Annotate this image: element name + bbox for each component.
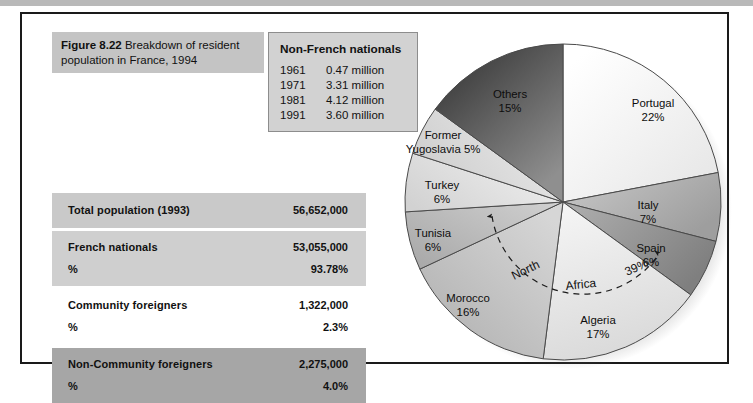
top-rule — [0, 0, 753, 6]
row-label: Non-Community foreigners — [68, 358, 213, 370]
pie-chart-svg: North Africa 39% Portugal 22% Italy 7% S… — [388, 34, 744, 376]
pie-label-tunisia-name: Tunisia — [415, 227, 452, 239]
pie-label-algeria-name: Algeria — [580, 314, 616, 326]
table-row: Total population (1993) 56,652,000 — [52, 199, 366, 221]
row-value: 2,275,000 — [299, 358, 348, 370]
row-value: 1,322,000 — [299, 299, 348, 311]
row-value: 56,652,000 — [293, 204, 348, 216]
year-cell: 1961 — [280, 63, 326, 78]
pie-label-former-yugoslavia-value: Yugoslavia 5% — [406, 143, 481, 155]
row-value: 4.0% — [323, 380, 348, 392]
figure-caption: Figure 8.22 Breakdown of resident popula… — [52, 32, 264, 73]
pie-label-portugal-name: Portugal — [632, 97, 674, 109]
table-row: 1971 3.31 million — [280, 78, 384, 93]
pie-label-others-value: 15% — [499, 102, 522, 114]
table-row: Community foreigners 1,322,000 — [52, 294, 366, 316]
stats-group-french-nationals: French nationals 53,055,000 % 93.78% — [52, 231, 366, 286]
table-row: 1961 0.47 million — [280, 63, 384, 78]
pie-label-algeria-value: 17% — [587, 328, 610, 340]
stats-group-non-community-foreigners: Non-Community foreigners 2,275,000 % 4.0… — [52, 348, 366, 403]
table-row: Non-Community foreigners 2,275,000 — [52, 353, 366, 375]
table-row: % 2.3% — [52, 316, 366, 338]
row-label: % — [68, 321, 78, 333]
pie-label-portugal-value: 22% — [642, 111, 665, 123]
pie-label-turkey-value: 6% — [434, 193, 450, 205]
year-cell: 1971 — [280, 78, 326, 93]
pie-label-italy-name: Italy — [638, 199, 659, 211]
table-row: 1981 4.12 million — [280, 93, 384, 108]
row-value: 2.3% — [323, 321, 348, 333]
non-french-nationals-table: 1961 0.47 million 1971 3.31 million 1981… — [280, 63, 384, 122]
pie-label-former-yugoslavia-name: Former — [425, 129, 462, 141]
population-stats-table: Total population (1993) 56,652,000 Frenc… — [52, 193, 366, 403]
table-row: French nationals 53,055,000 — [52, 236, 366, 258]
value-cell: 4.12 million — [326, 93, 384, 108]
pie-slices — [405, 44, 721, 360]
pie-label-others-name: Others — [493, 88, 527, 100]
pie-label-morocco-name: Morocco — [446, 292, 490, 304]
value-cell: 0.47 million — [326, 63, 384, 78]
value-cell: 3.60 million — [326, 107, 384, 122]
row-label: French nationals — [68, 241, 158, 253]
row-label: Community foreigners — [68, 299, 187, 311]
stats-group-community-foreigners: Community foreigners 1,322,000 % 2.3% — [52, 289, 366, 344]
year-cell: 1981 — [280, 93, 326, 108]
year-cell: 1991 — [280, 107, 326, 122]
pie-label-tunisia-value: 6% — [425, 241, 441, 253]
table-row: % 93.78% — [52, 258, 366, 280]
pie-label-italy-value: 7% — [640, 213, 656, 225]
stats-group-total-population: Total population (1993) 56,652,000 — [52, 193, 366, 228]
table-row: 1991 3.60 million — [280, 107, 384, 122]
row-value: 53,055,000 — [293, 241, 348, 253]
figure-number: Figure 8.22 — [61, 39, 122, 51]
row-value: 93.78% — [311, 263, 348, 275]
pie-label-spain-name: Spain — [636, 242, 665, 254]
figure-frame: Figure 8.22 Breakdown of resident popula… — [20, 12, 729, 364]
row-label: % — [68, 263, 78, 275]
pie-label-turkey-name: Turkey — [425, 179, 460, 191]
row-label: Total population (1993) — [68, 204, 190, 216]
pie-label-morocco-value: 16% — [457, 306, 480, 318]
value-cell: 3.31 million — [326, 78, 384, 93]
row-label: % — [68, 380, 78, 392]
table-row: % 4.0% — [52, 375, 366, 397]
pie-chart: North Africa 39% Portugal 22% Italy 7% S… — [388, 34, 744, 376]
pie-label-spain-value: 6% — [643, 256, 659, 268]
